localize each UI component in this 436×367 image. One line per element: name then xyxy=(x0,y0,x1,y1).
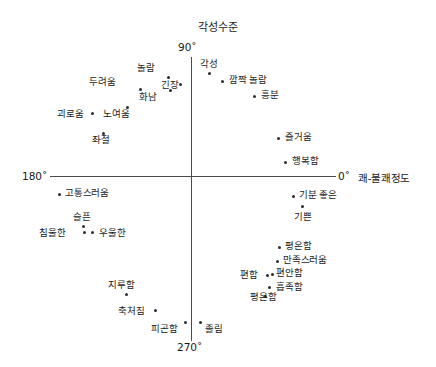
circumplex-affect-chart: 각성수준 90˚ 270˚ 180˚ 0˚ 쾌-불쾌정도 각성깜짝 놀람흥분즐거… xyxy=(0,0,436,367)
data-point-label: 각성 xyxy=(200,58,218,69)
data-point-label: 고통스러움 xyxy=(65,187,109,198)
axis-tick-180: 180˚ xyxy=(22,170,47,182)
data-point-label: 평온함 xyxy=(285,240,311,251)
axis-tick-90: 90˚ xyxy=(178,41,197,53)
data-point xyxy=(125,293,128,296)
data-point-label: 괴로움 xyxy=(57,108,83,119)
data-point xyxy=(199,321,202,324)
data-point xyxy=(91,231,94,234)
x-axis-line xyxy=(50,176,336,177)
data-point xyxy=(58,193,61,196)
data-point xyxy=(253,95,256,98)
data-point-label: 흡족함 xyxy=(276,281,302,292)
data-point-label: 행복함 xyxy=(292,155,318,166)
chart-title: 각성수준 xyxy=(0,18,436,34)
data-point xyxy=(154,309,157,312)
data-point xyxy=(292,195,295,198)
data-point xyxy=(277,137,280,140)
data-point xyxy=(266,274,269,277)
data-point-label: 평온함 xyxy=(250,291,276,302)
data-point xyxy=(271,273,274,276)
data-point-label: 깜짝 놀람 xyxy=(229,74,267,85)
data-point-label: 편함 xyxy=(240,269,258,280)
data-point-label: 두려움 xyxy=(89,76,115,87)
data-point xyxy=(184,321,187,324)
data-point xyxy=(83,231,86,234)
data-point xyxy=(91,112,94,115)
data-point-label: 만족스러움 xyxy=(283,254,327,265)
axis-tick-270: 270˚ xyxy=(177,341,202,353)
data-point-label: 침울한 xyxy=(39,227,65,238)
data-point-label: 기분 좋은 xyxy=(299,189,337,200)
data-point-label: 화남 xyxy=(139,91,157,102)
data-point-label: 우울한 xyxy=(99,227,125,238)
data-point-label: 졸림 xyxy=(205,323,223,334)
data-point xyxy=(301,205,304,208)
data-point xyxy=(278,246,281,249)
data-point xyxy=(208,72,211,75)
data-point-label: 좌절 xyxy=(92,134,110,145)
data-point-label: 축처짐 xyxy=(118,305,144,316)
x-axis-title: 쾌-불쾌정도 xyxy=(358,170,410,185)
data-point-label: 피곤함 xyxy=(151,323,177,334)
data-point-label: 흥분 xyxy=(261,89,279,100)
data-point xyxy=(221,80,224,83)
data-point-label: 편안함 xyxy=(276,267,302,278)
y-axis-line xyxy=(191,57,192,341)
data-point xyxy=(82,225,85,228)
data-point xyxy=(169,89,172,92)
data-point-label: 놀람 xyxy=(137,62,155,73)
data-point xyxy=(276,260,279,263)
data-point xyxy=(268,286,271,289)
data-point-label: 슬픈 xyxy=(73,211,91,222)
data-point-label: 기쁜 xyxy=(294,211,312,222)
data-point xyxy=(284,161,287,164)
axis-tick-0: 0˚ xyxy=(338,170,350,182)
data-point-label: 노여움 xyxy=(103,108,129,119)
data-point-label: 지루함 xyxy=(108,279,134,290)
data-point-label: 즐거움 xyxy=(285,131,311,142)
